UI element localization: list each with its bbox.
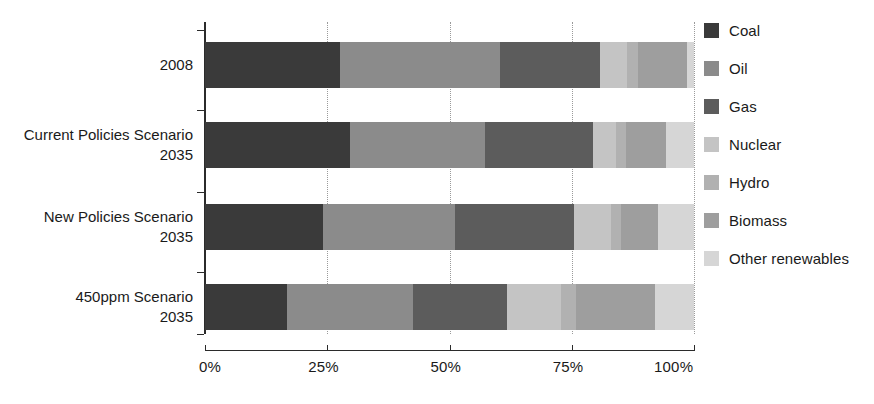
y-axis-tick — [197, 272, 204, 273]
legend-swatch-icon — [704, 251, 719, 266]
bar-segment-oil — [323, 204, 455, 250]
legend-item-label: Gas — [729, 98, 757, 115]
legend-item-hydro[interactable]: Hydro — [704, 172, 849, 192]
legend-swatch-icon — [704, 23, 719, 38]
legend-item-oil[interactable]: Oil — [704, 58, 849, 78]
x-axis-tick-label: 75% — [553, 358, 584, 375]
y-axis-category-label: 450ppm Scenario2035 — [0, 287, 193, 327]
x-axis-tick-label: 100% — [654, 358, 693, 375]
bar-segment-oil — [287, 284, 413, 330]
stacked-bar-chart: 2008Current Policies Scenario2035New Pol… — [0, 0, 874, 404]
x-axis-line — [205, 350, 694, 351]
legend-swatch-icon — [704, 213, 719, 228]
bar-segment-coal — [205, 204, 323, 250]
x-axis-tick — [572, 345, 573, 351]
y-axis-line — [204, 22, 205, 334]
bar-segment-hydro — [627, 42, 638, 88]
bar-segment-other-renewables — [666, 122, 694, 168]
bar-segment-coal — [205, 122, 350, 168]
bar-segment-oil — [350, 122, 485, 168]
bar-row — [205, 284, 694, 330]
bar-segment-biomass — [626, 122, 666, 168]
legend-swatch-icon — [704, 175, 719, 190]
bar-segment-other-renewables — [655, 284, 694, 330]
y-label-line2: 2035 — [0, 227, 193, 247]
legend-item-gas[interactable]: Gas — [704, 96, 849, 116]
x-axis-tick — [327, 345, 328, 351]
bar-segment-biomass — [576, 284, 655, 330]
gridline-100 — [694, 22, 695, 334]
legend-swatch-icon — [704, 99, 719, 114]
bar-segment-biomass — [621, 204, 658, 250]
legend: CoalOilGasNuclearHydroBiomassOther renew… — [704, 20, 849, 286]
bar-segment-other-renewables — [658, 204, 694, 250]
y-axis-tick — [197, 334, 204, 335]
legend-swatch-icon — [704, 61, 719, 76]
legend-item-label: Hydro — [729, 174, 770, 191]
bar-segment-hydro — [561, 284, 576, 330]
legend-item-nuclear[interactable]: Nuclear — [704, 134, 849, 154]
bar-segment-hydro — [616, 122, 626, 168]
bar-segment-nuclear — [574, 204, 611, 250]
x-axis-tick-label: 0% — [199, 358, 221, 375]
legend-swatch-icon — [704, 137, 719, 152]
x-axis-tick — [205, 345, 206, 351]
y-label-line1: New Policies Scenario — [0, 207, 193, 227]
bar-segment-hydro — [611, 204, 621, 250]
y-axis-category-label: Current Policies Scenario2035 — [0, 125, 193, 165]
bar-row — [205, 42, 694, 88]
y-axis-category-label: New Policies Scenario2035 — [0, 207, 193, 247]
bar-segment-nuclear — [507, 284, 561, 330]
bar-row — [205, 122, 694, 168]
bar-segment-oil — [340, 42, 500, 88]
legend-item-label: Other renewables — [729, 250, 849, 267]
legend-item-label: Nuclear — [729, 136, 781, 153]
bar-segment-nuclear — [600, 42, 628, 88]
x-axis-tick — [450, 345, 451, 351]
x-axis-tick-label: 50% — [431, 358, 462, 375]
y-label-line1: 450ppm Scenario — [0, 287, 193, 307]
x-axis-tick — [694, 345, 695, 351]
y-label-line2: 2008 — [0, 55, 193, 75]
legend-item-other-renewables[interactable]: Other renewables — [704, 248, 849, 268]
y-label-line1: Current Policies Scenario — [0, 125, 193, 145]
plot-area — [205, 22, 694, 334]
bar-row — [205, 204, 694, 250]
bar-segment-gas — [413, 284, 507, 330]
y-axis-tick — [197, 110, 204, 111]
y-axis-category-label: 2008 — [0, 55, 193, 75]
y-axis-tick — [197, 192, 204, 193]
y-label-line2: 2035 — [0, 145, 193, 165]
legend-item-label: Biomass — [729, 212, 787, 229]
legend-item-biomass[interactable]: Biomass — [704, 210, 849, 230]
legend-item-label: Oil — [729, 60, 748, 77]
bar-segment-gas — [500, 42, 600, 88]
bar-segment-biomass — [638, 42, 687, 88]
bar-segment-gas — [485, 122, 593, 168]
bar-segment-coal — [205, 42, 340, 88]
y-axis-tick — [197, 30, 204, 31]
bar-segment-gas — [455, 204, 574, 250]
bar-segment-nuclear — [593, 122, 616, 168]
bar-segment-other-renewables — [687, 42, 694, 88]
bar-segment-coal — [205, 284, 287, 330]
legend-item-label: Coal — [729, 22, 760, 39]
y-label-line2: 2035 — [0, 307, 193, 327]
x-axis-tick-label: 25% — [308, 358, 339, 375]
legend-item-coal[interactable]: Coal — [704, 20, 849, 40]
